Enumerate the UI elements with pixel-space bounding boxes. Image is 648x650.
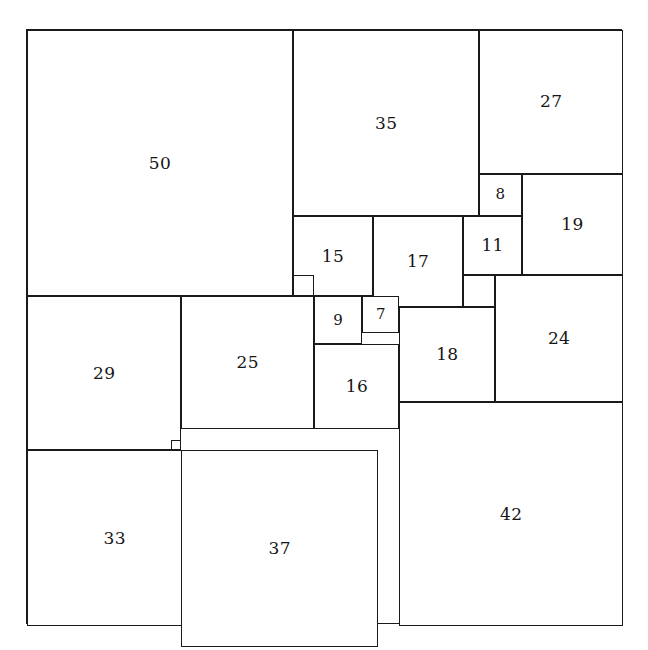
square-label-33: 33 <box>104 530 126 547</box>
square-24: 24 <box>495 275 623 403</box>
square-label-50: 50 <box>149 155 171 172</box>
squared-square-figure: 503527819151711242925971816423337 <box>0 0 648 650</box>
square-label-11: 11 <box>481 237 503 254</box>
square-11: 11 <box>463 216 522 275</box>
square-label-24: 24 <box>548 330 570 347</box>
square-27: 27 <box>479 30 623 174</box>
square-label-8: 8 <box>496 187 506 202</box>
square-label-17: 17 <box>407 253 429 270</box>
square-29: 29 <box>27 296 181 450</box>
square-6 <box>463 275 495 307</box>
square-label-37: 37 <box>269 540 291 557</box>
square-2 <box>171 440 182 451</box>
square-7: 7 <box>362 296 399 333</box>
square-35: 35 <box>293 30 479 216</box>
square-25: 25 <box>181 296 314 429</box>
square-42: 42 <box>399 402 622 625</box>
square-label-9: 9 <box>333 313 343 328</box>
square-8: 8 <box>479 174 522 217</box>
square-label-29: 29 <box>93 365 115 382</box>
square-17: 17 <box>373 216 463 306</box>
square-label-7: 7 <box>376 307 386 322</box>
square-label-16: 16 <box>346 378 368 395</box>
square-37: 37 <box>181 450 378 647</box>
square-label-19: 19 <box>561 216 583 233</box>
square-label-35: 35 <box>375 115 397 132</box>
square-9: 9 <box>314 296 362 344</box>
square-16: 16 <box>314 344 399 429</box>
square-50: 50 <box>27 30 293 296</box>
square-label-15: 15 <box>322 248 344 265</box>
square-label-18: 18 <box>436 346 458 363</box>
square-18: 18 <box>399 307 495 403</box>
outer-square-boundary: 503527819151711242925971816423337 <box>26 29 622 624</box>
square-4 <box>293 275 314 296</box>
square-label-42: 42 <box>500 506 522 523</box>
square-19: 19 <box>522 174 623 275</box>
square-label-27: 27 <box>540 93 562 110</box>
square-33: 33 <box>27 450 203 626</box>
square-label-25: 25 <box>237 354 259 371</box>
